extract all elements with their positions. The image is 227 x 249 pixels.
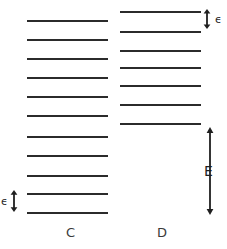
energy-level-d-7 (120, 123, 201, 125)
energy-level-c-8 (27, 155, 108, 157)
energy-level-c-2 (27, 39, 108, 41)
epsilon-top-right-label: ϵ (215, 14, 222, 25)
column-label-c: C (66, 226, 75, 239)
energy-level-diagram: ϵϵE CD (0, 0, 227, 249)
energy-level-c-4 (27, 77, 108, 79)
energy-level-d-6 (120, 104, 201, 106)
epsilon-bottom-left-arrow (6, 189, 22, 213)
energy-level-c-1 (27, 20, 108, 22)
energy-level-d-2 (120, 31, 201, 33)
energy-level-d-4 (120, 67, 201, 69)
energy-level-c-9 (27, 175, 108, 177)
epsilon-top-right-arrow (199, 8, 215, 30)
energy-level-d-1 (120, 11, 201, 13)
energy-level-c-3 (27, 58, 108, 60)
energy-level-c-5 (27, 96, 108, 98)
energy-level-c-7 (27, 136, 108, 138)
energy-level-c-11 (27, 212, 108, 214)
column-label-d: D (157, 226, 167, 239)
energy-level-c-10 (27, 193, 108, 195)
energy-gap-e-label: E (204, 164, 213, 178)
energy-level-d-5 (120, 85, 201, 87)
epsilon-bottom-left-label: ϵ (1, 196, 8, 207)
energy-level-d-3 (120, 50, 201, 52)
energy-level-c-6 (27, 115, 108, 117)
